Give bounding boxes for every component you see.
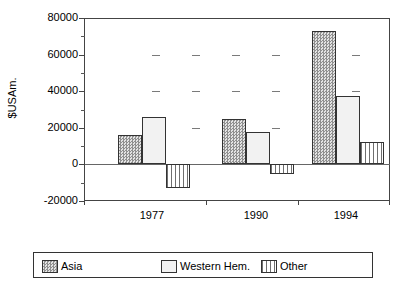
bar-asia-1990: [222, 119, 246, 165]
x-axis-tick-label: 1994: [311, 209, 381, 222]
chart-legend: AsiaWestern Hem.Other: [33, 252, 373, 278]
y-axis-minor-tick: [81, 183, 85, 184]
y-axis-minor-tick: [81, 146, 85, 147]
y-axis-tick: [79, 128, 85, 129]
x-axis-tick: [298, 200, 299, 205]
y-axis-minor-tick: [81, 36, 85, 37]
x-axis-line: [84, 200, 390, 201]
y-axis-minor-tick: [81, 73, 85, 74]
bar-western-hem-1977: [142, 117, 166, 165]
bar-asia-1977: [118, 135, 142, 164]
grid-dash: [352, 55, 360, 56]
x-axis-tick: [84, 200, 85, 205]
legend-label: Other: [280, 260, 308, 273]
bar-western-hem-1990: [246, 132, 270, 164]
bar-other-1994: [360, 142, 384, 165]
legend-entry-asia[interactable]: Asia: [42, 258, 82, 274]
grid-dash: [272, 55, 280, 56]
y-axis-tick-label: -20000: [8, 195, 78, 206]
chart-title-remnant: [140, 0, 260, 5]
grid-dash: [232, 91, 240, 92]
y-axis-tick-label: 80000: [8, 12, 78, 23]
grid-dash: [152, 55, 160, 56]
grid-dash: [192, 91, 200, 92]
grid-dash: [352, 91, 360, 92]
legend-label: Asia: [61, 260, 82, 273]
bar-other-1990: [270, 164, 294, 173]
grid-dash: [232, 55, 240, 56]
y-axis-tick-label: 20000: [8, 122, 78, 133]
bar-other-1977: [166, 164, 190, 188]
legend-swatch-icon: [42, 260, 58, 273]
y-axis-tick-label: 0: [8, 158, 78, 169]
y-axis-tick-label: 60000: [8, 49, 78, 60]
bar-western-hem-1994: [336, 96, 360, 165]
grid-dash: [152, 91, 160, 92]
y-axis-tick: [79, 164, 85, 165]
x-axis-tick: [206, 200, 207, 205]
x-axis-tick: [389, 200, 390, 205]
y-axis-tick-label: 40000: [8, 85, 78, 96]
legend-entry-other[interactable]: Other: [261, 258, 308, 274]
grid-dash: [192, 55, 200, 56]
grid-dash: [192, 128, 200, 129]
bar-asia-1994: [312, 31, 336, 165]
legend-swatch-icon: [161, 260, 177, 273]
legend-entry-western-hem[interactable]: Western Hem.: [161, 258, 250, 274]
x-axis-tick-label: 1990: [221, 209, 291, 222]
bar-chart-figure: $USAm. 800006000040000200000-20000 19771…: [0, 0, 408, 294]
x-axis-tick-label: 1977: [117, 209, 187, 222]
y-axis-tick: [79, 18, 85, 19]
y-axis-tick: [79, 91, 85, 92]
grid-dash: [272, 128, 280, 129]
zero-reference-line: [84, 164, 390, 165]
legend-label: Western Hem.: [180, 260, 250, 273]
y-axis-minor-tick: [81, 110, 85, 111]
plot-area: 800006000040000200000-20000 197719901994: [84, 18, 390, 201]
grid-dash: [272, 91, 280, 92]
legend-swatch-icon: [261, 260, 277, 273]
y-axis-tick: [79, 55, 85, 56]
